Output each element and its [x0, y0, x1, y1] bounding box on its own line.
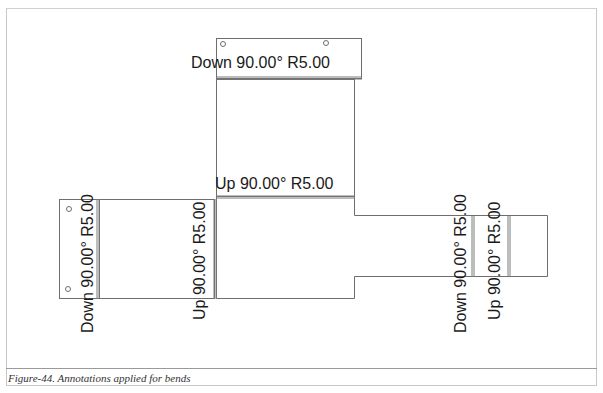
caption-divider	[6, 368, 597, 369]
bend-annotation-top: Down 90.00° R5.00	[191, 54, 330, 71]
hole-icon	[67, 207, 72, 212]
bend-line-right-2	[508, 216, 510, 277]
hole-icon	[324, 41, 329, 46]
bend-line-right-1	[472, 216, 474, 277]
bend-annotation-left-flap: Down 90.00° R5.00	[79, 194, 96, 333]
figure-caption: Figure-44. Annotations applied for bends	[8, 372, 190, 384]
bend-line-left-flap	[97, 199, 99, 299]
bend-annotation-right-2: Up 90.00° R5.00	[486, 201, 503, 320]
bend-annotation-center: Up 90.00° R5.00	[215, 175, 334, 192]
sheet-metal-flat-pattern: Down 90.00° R5.00 Up 90.00° R5.00 Down 9…	[0, 0, 603, 393]
hole-icon	[66, 287, 71, 292]
bend-annotation-right-1: Down 90.00° R5.00	[452, 194, 469, 333]
hole-icon	[221, 42, 226, 47]
bend-annotation-left-panel: Up 90.00° R5.00	[191, 201, 208, 320]
